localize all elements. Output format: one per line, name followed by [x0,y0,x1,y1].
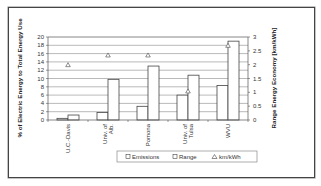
left-tick-label: 14 [37,59,44,65]
bar-emissions [177,95,188,120]
combo-chart: 02468101214161820 00.511.522.53 U.C.-Dav… [0,0,321,186]
left-tick-label: 8 [41,84,45,90]
category-label: Univ. ofAlb. [102,124,115,144]
category-label-line: Univ. of [182,124,188,144]
legend-kmkwh-label: km/kWh [219,154,241,160]
bar-emissions [217,86,228,120]
bar-range [68,115,79,120]
left-axis-ticks: 02468101214161820 [37,34,48,123]
left-tick-label: 10 [37,76,44,82]
right-tick-label: 0.5 [253,103,262,109]
category-label: WVU [225,124,231,138]
right-tick-label: 2.5 [253,48,262,54]
triangle-marker-icon [66,63,71,67]
left-tick-label: 4 [41,100,45,106]
legend-range-swatch [173,155,177,159]
legend: Emissions Range km/kWh [117,151,257,162]
bar-range [108,79,119,120]
right-tick-label: 3 [253,34,257,40]
left-tick-label: 12 [37,67,44,73]
left-tick-label: 2 [41,109,45,115]
category-label: Univ. ofTulsa [182,123,195,144]
right-axis-title: Range Energy Economy [km/kWh] [270,28,277,129]
bar-range [188,75,199,120]
category-label-line: Tulsa [188,123,194,138]
left-tick-label: 18 [37,42,44,48]
category-label-line: Univ. of [102,124,108,144]
legend-emissions-swatch [126,155,130,159]
left-axis-title: % of Electric Energy to Total Energy Use [16,18,23,138]
bar-emissions [97,113,108,120]
category-label-line: Alb. [108,124,114,135]
right-tick-label: 1.5 [253,76,262,82]
left-tick-label: 6 [41,92,45,98]
legend-range-label: Range [179,154,197,160]
category-label: U.C.-Davis [65,124,71,153]
legend-emissions-label: Emissions [132,154,159,160]
bar-range [228,41,239,120]
bar-emissions [137,106,148,120]
right-tick-label: 2 [253,62,257,68]
right-tick-label: 0 [253,117,257,123]
left-tick-label: 16 [37,51,44,57]
left-tick-label: 0 [41,117,45,123]
category-label-line: Pomona [145,123,151,146]
bar-range [148,66,159,120]
left-tick-label: 20 [37,34,44,40]
category-label-line: WVU [225,124,231,138]
right-axis-ticks: 00.511.522.53 [248,34,262,123]
category-label: Pomona [145,123,151,146]
category-label-line: U.C.-Davis [65,124,71,153]
category-labels: U.C.-DavisUniv. ofAlb.PomonaUniv. ofTuls… [65,123,231,153]
right-tick-label: 1 [253,89,257,95]
